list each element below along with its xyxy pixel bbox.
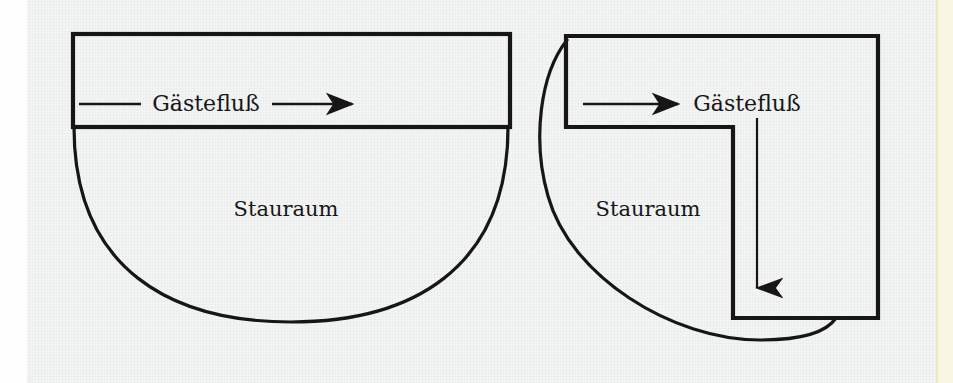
left-queue-arc — [74, 127, 508, 322]
right-area-label: Stauraum — [596, 197, 701, 221]
right-flow-label: Gästefluß — [693, 91, 800, 116]
left-panel-group: Gästefluß Stauraum — [73, 34, 510, 322]
diagram-canvas: Gästefluß Stauraum Gästefluß Stauraum — [0, 0, 953, 383]
right-queue-arc — [540, 40, 836, 340]
left-flow-label: Gästefluß — [152, 91, 259, 116]
figure-page: Gästefluß Stauraum Gästefluß Stauraum — [0, 0, 953, 383]
right-panel-group: Gästefluß Stauraum — [540, 36, 878, 340]
left-corridor-rectangle — [73, 34, 510, 127]
right-corridor-lshape — [566, 36, 878, 318]
left-area-label: Stauraum — [234, 197, 339, 221]
